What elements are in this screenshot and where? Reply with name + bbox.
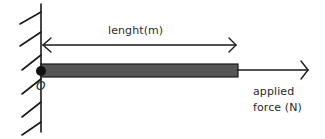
beam-bar	[41, 64, 238, 77]
applied-force-label-line1: applied	[253, 84, 302, 100]
cantilever-diagram	[0, 0, 325, 139]
applied-force-arrow	[238, 61, 308, 79]
wall-hatch	[20, 32, 41, 46]
origin-label: O	[36, 80, 46, 93]
length-dimension-arrow	[43, 38, 236, 52]
wall-hatch	[20, 12, 41, 24]
applied-force-label: applied force (N)	[253, 84, 302, 116]
pivot-point	[36, 66, 46, 76]
wall-hatch	[22, 102, 41, 117]
applied-force-label-line2: force (N)	[253, 100, 302, 116]
length-label: lenght(m)	[108, 24, 163, 37]
wall-hatch	[22, 122, 41, 135]
